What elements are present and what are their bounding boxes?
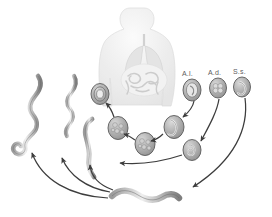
adult-worm-2 [66,76,76,136]
ovum-mid-left [108,117,128,140]
ovum-mid-right [164,116,184,139]
ovum-upper-left [91,84,109,105]
species-label-ad: A.d. [208,69,221,76]
species-label-ss: S.s. [233,68,246,75]
adult-worm-3 [85,119,94,177]
ovum-center [135,133,155,156]
lifecycle-diagram: A.l. A.d. S.s. [0,0,272,217]
species-egg-ad [210,78,227,98]
arrow-larva-to-worm1 [32,153,108,198]
arrow-ai-to-ovum [183,101,194,117]
arrow-lowerright-to-worm3 [120,155,182,164]
larva-bottom [112,191,179,200]
ovum-lower-right [183,140,201,161]
arrow-center-to-midleft [124,134,135,140]
arrow-ss-to-larva [193,98,246,187]
species-egg-ss [234,77,251,97]
human-body-silhouette [99,8,175,106]
arrow-ad-to-ovum [201,99,219,141]
adult-worm-1 [13,76,40,154]
species-label-ai: A.l. [182,70,193,77]
arrow-larva-to-worm2 [62,158,110,192]
species-egg-ai [183,79,201,101]
diagram-canvas [0,0,272,217]
